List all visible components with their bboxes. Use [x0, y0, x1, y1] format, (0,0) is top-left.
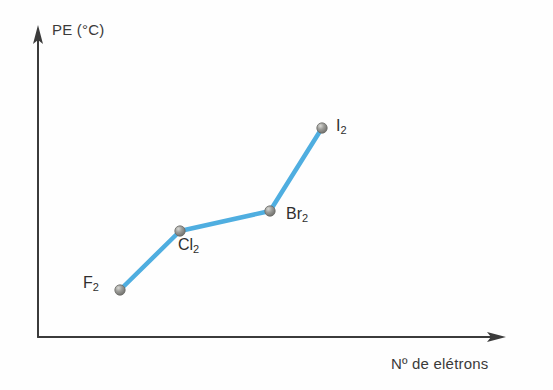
- data-point-label-f2-subscript: 2: [93, 281, 99, 293]
- x-axis-label: Nº de elétrons: [391, 355, 489, 372]
- data-point-marker: [317, 123, 327, 133]
- data-point-label-br2: Br2: [286, 205, 308, 223]
- data-point-label-br2-subscript: 2: [302, 212, 308, 224]
- data-point-label-br2-text: Br: [286, 205, 302, 222]
- data-point-label-i2-subscript: 2: [340, 124, 346, 136]
- data-point-label-f2: F2: [83, 274, 99, 292]
- x-axis: [38, 332, 506, 342]
- data-point-label-cl2-subscript: 2: [193, 243, 199, 255]
- data-point-label-cl2: Cl2: [178, 236, 199, 254]
- data-point-label-i2: I2: [336, 117, 347, 135]
- data-point-marker: [175, 226, 185, 236]
- data-point-label-f2-text: F: [83, 274, 93, 291]
- chart-plot-area: [0, 0, 553, 390]
- data-point-label-cl2-text: Cl: [178, 236, 193, 253]
- y-axis-label: PE (°C): [52, 21, 104, 38]
- data-point-marker: [115, 285, 125, 295]
- chart-figure: PE (°C) Nº de elétrons F2 Cl2 Br2 I2: [0, 0, 553, 390]
- data-point-marker: [265, 206, 275, 216]
- y-axis: [33, 25, 43, 337]
